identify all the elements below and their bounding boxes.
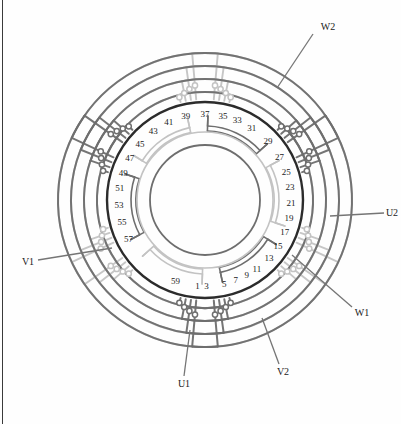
slot-number-39: 39 xyxy=(181,112,190,121)
terminal-u2: U2 xyxy=(386,208,398,218)
slot-number-33: 33 xyxy=(233,116,242,125)
slot-number-15: 15 xyxy=(273,241,282,250)
slot-number-37: 37 xyxy=(201,110,210,119)
diagram-page: 1357911131517192123252729313335373941434… xyxy=(0,0,401,424)
slot-number-25: 25 xyxy=(282,168,291,177)
coil-group-arcs xyxy=(125,116,285,284)
terminal-w1: W1 xyxy=(355,308,369,318)
slot-number-7: 7 xyxy=(234,276,239,285)
slot-number-11: 11 xyxy=(252,264,261,273)
slot-number-55: 55 xyxy=(117,218,126,227)
terminal-w2: W2 xyxy=(321,22,335,32)
terminal-leader-lines xyxy=(38,34,384,376)
slot-number-1: 1 xyxy=(195,281,200,290)
slot-number-35: 35 xyxy=(218,111,227,120)
slot-number-29: 29 xyxy=(263,137,272,146)
slot-number-3: 3 xyxy=(204,282,209,291)
slot-number-17: 17 xyxy=(280,228,289,237)
slot-number-27: 27 xyxy=(275,153,284,162)
terminal-v1: V1 xyxy=(22,257,34,267)
slot-number-19: 19 xyxy=(285,213,294,222)
slot-number-21: 21 xyxy=(286,199,295,208)
slot-number-13: 13 xyxy=(264,253,273,262)
stator-winding-diagram xyxy=(0,0,401,424)
slot-number-41: 41 xyxy=(164,118,173,127)
slot-number-51: 51 xyxy=(115,184,124,193)
slot-number-59: 59 xyxy=(171,276,180,285)
end-turn-bundles-dark xyxy=(58,53,352,347)
slot-number-9: 9 xyxy=(244,271,249,280)
slot-number-23: 23 xyxy=(285,182,294,191)
terminal-v2: V2 xyxy=(277,367,289,377)
slot-number-5: 5 xyxy=(222,279,227,288)
slot-number-31: 31 xyxy=(247,123,256,132)
slot-number-49: 49 xyxy=(119,169,128,178)
slot-number-43: 43 xyxy=(149,127,158,136)
slot-number-57: 57 xyxy=(124,235,133,244)
slot-number-45: 45 xyxy=(136,139,145,148)
slot-number-53: 53 xyxy=(115,200,124,209)
terminal-u1: U1 xyxy=(178,379,190,389)
slot-number-47: 47 xyxy=(125,154,134,163)
stator-outline xyxy=(107,102,303,298)
end-turn-bundles-light xyxy=(58,53,352,347)
